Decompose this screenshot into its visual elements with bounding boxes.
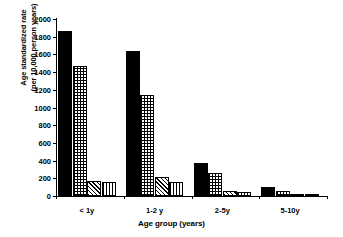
x-tick-label: 5-10y	[281, 206, 300, 215]
x-tick-mark	[259, 196, 260, 199]
x-tick-label: 2-5y	[215, 206, 230, 215]
y-tick-label: 1600	[5, 50, 56, 59]
plot-area: 0200400600800100012001400160018002000< 1…	[56, 19, 327, 196]
x-tick-label: < 1y	[79, 206, 94, 215]
y-tick-label: 200	[5, 174, 56, 183]
bar-group	[124, 19, 192, 196]
y-tick-label: 1000	[5, 103, 56, 112]
bar-group	[192, 19, 260, 196]
bar-chart: Age standardized rate (per 10,000 person…	[0, 0, 343, 237]
bar-series-2-3	[276, 191, 290, 196]
bar-group	[259, 19, 327, 196]
x-axis-label: Age group (years)	[0, 219, 343, 228]
x-tick-mark	[124, 196, 125, 199]
bar-series-2-2	[208, 173, 222, 196]
y-tick-label: 2000	[5, 15, 56, 24]
bar-series-2-0	[73, 66, 87, 196]
y-tick-label: 1200	[5, 85, 56, 94]
y-tick-label: 800	[5, 121, 56, 130]
y-tick-label: 400	[5, 156, 56, 165]
x-tick-mark	[56, 196, 57, 199]
x-tick-label: 1-2 y	[146, 206, 163, 215]
bar-series-4-0	[102, 182, 116, 196]
x-tick-mark	[192, 196, 193, 199]
bar-series-3-1	[155, 177, 169, 196]
bar-series-1-1	[126, 51, 140, 196]
y-tick-label: 1400	[5, 68, 56, 77]
bar-group	[56, 19, 124, 196]
y-tick-label: 600	[5, 138, 56, 147]
bar-series-3-2	[223, 191, 237, 196]
bar-series-1-0	[58, 31, 72, 196]
bar-series-2-1	[140, 95, 154, 196]
bar-series-3-0	[87, 181, 101, 196]
x-tick-mark	[327, 196, 328, 199]
bar-series-4-3	[305, 194, 319, 196]
bar-series-3-3	[290, 194, 304, 196]
y-tick-label: 0	[5, 192, 56, 201]
y-tick-label: 1800	[5, 32, 56, 41]
bar-series-1-2	[194, 163, 208, 196]
bar-series-4-2	[237, 192, 251, 196]
bar-series-1-3	[261, 187, 275, 196]
bar-series-4-1	[169, 182, 183, 196]
